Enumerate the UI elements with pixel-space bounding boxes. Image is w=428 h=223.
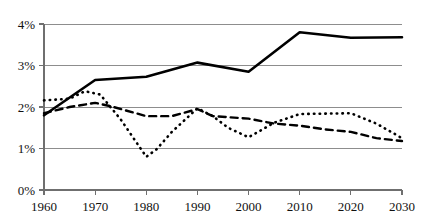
x-tick-label: 2000: [236, 199, 262, 214]
y-tick-label: 2%: [18, 100, 36, 115]
x-tick-label: 2020: [338, 199, 364, 214]
series-line-dotted: [44, 91, 402, 157]
y-axis: [39, 24, 44, 190]
y-tick-label: 4%: [18, 17, 36, 32]
y-tick-label: 0%: [18, 183, 36, 198]
y-tick-labels: 0%1%2%3%4%: [18, 17, 36, 198]
x-tick-label: 1960: [31, 199, 57, 214]
x-tick-label: 1990: [184, 199, 210, 214]
x-tick-label: 1970: [82, 199, 108, 214]
x-tick-label: 2010: [287, 199, 313, 214]
y-tick-label: 1%: [18, 141, 36, 156]
chart-canvas: 0%1%2%3%4% 19601970198019902000201020202…: [0, 0, 428, 223]
gridlines: [44, 24, 402, 190]
series-line-dashed: [44, 103, 402, 141]
x-tick-label: 2030: [389, 199, 415, 214]
line-chart: 0%1%2%3%4% 19601970198019902000201020202…: [0, 0, 428, 223]
y-tick-label: 3%: [18, 58, 36, 73]
x-tick-labels: 19601970198019902000201020202030: [31, 199, 415, 214]
x-axis: [44, 190, 402, 195]
data-series: [44, 32, 402, 157]
x-tick-label: 1980: [133, 199, 159, 214]
